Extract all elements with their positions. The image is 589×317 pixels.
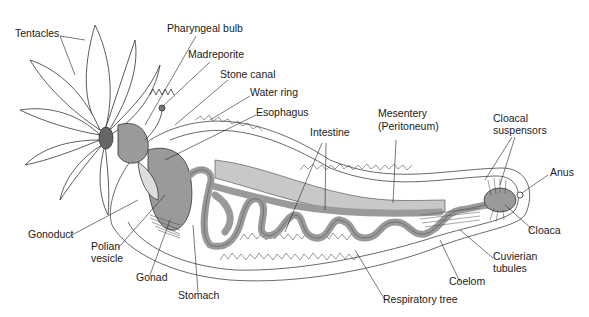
- stomach-gonad: [138, 148, 192, 238]
- label-vesicle: vesicle: [91, 252, 123, 264]
- label-respiratory-tree: Respiratory tree: [383, 293, 458, 305]
- label-cuvierian: Cuvierian: [493, 250, 537, 262]
- label-stone-canal: Stone canal: [220, 68, 275, 80]
- label-water-ring: Water ring: [250, 86, 298, 98]
- label-suspensors: suspensors: [493, 124, 547, 136]
- label-tentacles: Tentacles: [15, 27, 59, 39]
- tentacles: [20, 25, 160, 215]
- label-tubules: tubules: [493, 262, 527, 274]
- label-peritoneum: (Peritoneum): [378, 120, 439, 132]
- label-cloacal: Cloacal: [493, 112, 528, 124]
- label-gonad: Gonad: [136, 271, 168, 283]
- label-cloaca: Cloaca: [528, 224, 561, 236]
- label-anus: Anus: [550, 166, 574, 178]
- label-coelom: Coelom: [449, 275, 485, 287]
- label-esophagus: Esophagus: [256, 106, 309, 118]
- label-stomach: Stomach: [178, 289, 219, 301]
- label-polian: Polian: [91, 240, 120, 252]
- label-pharyngeal-bulb: Pharyngeal bulb: [167, 22, 243, 34]
- label-intestine: Intestine: [310, 126, 350, 138]
- cloaca: [484, 178, 523, 222]
- label-madreporite: Madreporite: [188, 48, 244, 60]
- label-gonoduct: Gonoduct: [28, 228, 74, 240]
- label-mesentery: Mesentery: [378, 107, 427, 119]
